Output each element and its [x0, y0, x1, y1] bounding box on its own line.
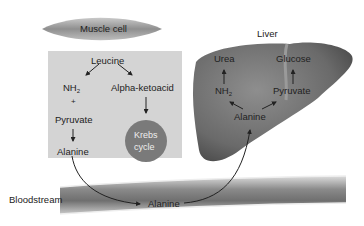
- muscle-cell-title: Muscle cell: [80, 24, 127, 34]
- krebs-cycle-circle: [125, 120, 167, 162]
- alpha-ketoacid-label: Alpha-ketoacid: [111, 83, 174, 93]
- alanine-label: Alanine: [57, 147, 89, 157]
- plus-sign: +: [71, 98, 76, 106]
- urea-label: Urea: [214, 54, 235, 64]
- bloodstream-label: Bloodstream: [9, 195, 62, 205]
- liver-nh2-label: NH2: [215, 86, 232, 97]
- liver-nh2-text: NH: [215, 85, 229, 96]
- nh2-label: NH2: [63, 83, 80, 94]
- glucose-label: Glucose: [276, 54, 311, 64]
- liver-title: Liver: [257, 29, 278, 39]
- cycle-label: cycle: [134, 143, 155, 152]
- nh2-text: NH: [63, 82, 77, 93]
- liver-pyruvate-label: Pyruvate: [273, 86, 311, 96]
- bloodstream-alanine-label: Alanine: [148, 199, 180, 209]
- nh2-subscript: 2: [77, 88, 80, 94]
- diagram-graphics: [0, 0, 364, 226]
- leucine-label: Leucine: [91, 56, 124, 66]
- liver-alanine-label: Alanine: [234, 112, 266, 122]
- pyruvate-label: Pyruvate: [55, 115, 93, 125]
- krebs-label: Krebs: [134, 131, 158, 140]
- liver-nh2-subscript: 2: [229, 91, 232, 97]
